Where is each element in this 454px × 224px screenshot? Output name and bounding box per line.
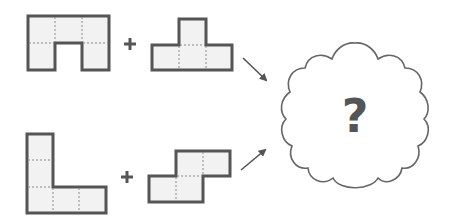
- u-shape-piece: [28, 16, 109, 70]
- puzzle-diagram: [0, 0, 454, 224]
- plus-icon: [124, 38, 136, 50]
- arrow-icon: [241, 150, 265, 170]
- plus-icon: [121, 171, 133, 183]
- arrow-icon: [243, 58, 266, 80]
- question-mark: ?: [330, 88, 380, 144]
- s-shape-piece: [149, 151, 230, 202]
- l-shape-piece: [27, 134, 106, 213]
- t-shape-piece: [152, 19, 232, 70]
